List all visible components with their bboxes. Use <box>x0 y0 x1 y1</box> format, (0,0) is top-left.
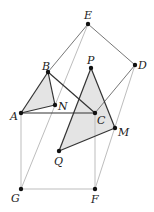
label-E: E <box>83 9 92 22</box>
point-A <box>19 111 23 115</box>
label-G: G <box>11 192 20 205</box>
label-M: M <box>117 126 130 139</box>
label-D: D <box>137 59 147 72</box>
point-D <box>133 63 137 67</box>
geometry-diagram: EDBPNACMQGF <box>0 0 154 212</box>
point-G <box>19 187 23 191</box>
label-N: N <box>57 100 68 113</box>
diagram-canvas: EDBPNACMQGF <box>0 0 154 212</box>
label-A: A <box>9 110 18 123</box>
point-N <box>53 103 57 107</box>
label-C: C <box>97 114 106 127</box>
label-F: F <box>90 193 99 206</box>
label-B: B <box>41 60 50 73</box>
label-Q: Q <box>54 155 63 168</box>
point-M <box>113 126 117 130</box>
point-E <box>86 22 90 26</box>
point-Q <box>57 149 61 153</box>
label-P: P <box>86 54 95 67</box>
point-F <box>93 187 97 191</box>
